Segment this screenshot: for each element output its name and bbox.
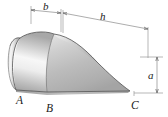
technical-figure: b h a A B C (0, 0, 168, 117)
dimension-label-b: b (43, 0, 49, 12)
vertex-label-c: C (131, 99, 139, 111)
dim-line-h (63, 13, 148, 29)
dimension-a: a (134, 57, 163, 96)
figure-container: b h a A B C (0, 0, 168, 117)
solid-body (8, 32, 130, 95)
vertex-label-b: B (46, 102, 53, 114)
dimension-label-h: h (100, 10, 106, 22)
vertex-label-a: A (15, 94, 24, 106)
cone-flank (46, 34, 130, 92)
dimension-b: b (31, 0, 61, 32)
dimension-label-a: a (148, 69, 154, 81)
vertex-labels: A B C (15, 94, 139, 114)
